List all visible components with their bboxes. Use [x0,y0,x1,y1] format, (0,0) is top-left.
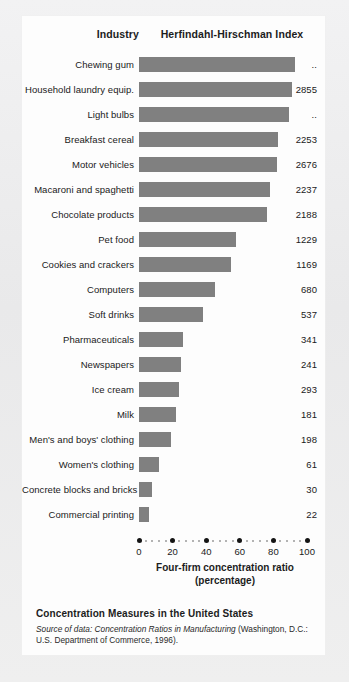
row-industry-label: Soft drinks [22,309,134,320]
row-industry-label: Breakfast cereal [22,134,134,145]
row-hhi-value: 2253 [273,134,317,145]
row-hhi-value: 2237 [273,184,317,195]
axis-minor-dot [158,540,160,542]
chart-row: Milk181 [22,404,325,429]
figure-caption: Concentration Measures in the United Sta… [36,608,314,646]
header-industry: Industry [22,28,139,40]
row-hhi-value: 198 [273,434,317,445]
chart-row: Motor vehicles2676 [22,154,325,179]
axis-minor-dot [299,540,301,542]
axis-tick-dot [170,538,175,543]
axis-tick-dot [204,538,209,543]
row-industry-label: Computers [22,284,134,295]
chart-row: Chocolate products2188 [22,204,325,229]
row-industry-label: Chocolate products [22,209,134,220]
chart-row: Men's and boys' clothing198 [22,429,325,454]
row-industry-label: Motor vehicles [22,159,134,170]
caption-source: Source of data: Concentration Ratios in … [36,624,314,646]
chart-row: Soft drinks537 [22,304,325,329]
row-hhi-value: 1229 [273,234,317,245]
row-bar [139,282,215,297]
axis-tick-dot [137,538,142,543]
caption-source-prefix: Source of data: [36,624,92,634]
chart-row: Light bulbs.. [22,104,325,129]
axis-minor-dot [178,540,180,542]
row-bar [139,207,267,222]
caption-source-publication: Concentration Ratios in Manufacturing [95,624,236,634]
chart-row: Pharmaceuticals341 [22,329,325,354]
chart-row: Household laundry equip.2855 [22,79,325,104]
axis-tick-label: 60 [235,546,246,557]
axis-tick-label: 100 [299,546,315,557]
axis-minor-dot [259,540,261,542]
row-hhi-value: 30 [273,484,317,495]
chart-row: Newspapers241 [22,354,325,379]
chart-row: Chewing gum.. [22,54,325,79]
axis-title: Four-firm concentration ratio (percentag… [139,562,311,587]
row-bar [139,182,270,197]
row-hhi-value: 341 [273,334,317,345]
row-industry-label: Ice cream [22,384,134,395]
row-hhi-value: 2855 [273,84,317,95]
chart-row: Macaroni and spaghetti2237 [22,179,325,204]
row-industry-label: Concrete blocks and bricks [22,484,134,495]
row-industry-label: Chewing gum [22,59,134,70]
row-hhi-value: .. [273,59,317,70]
axis-minor-dot [198,540,200,542]
chart-row: Pet food1229 [22,229,325,254]
row-hhi-value: 181 [273,409,317,420]
row-hhi-value: 61 [273,459,317,470]
axis-minor-dot [212,540,214,542]
column-headers: Industry Herfindahl-Hirschman Index [22,28,325,44]
axis-minor-dot [165,540,167,542]
row-hhi-value: 2676 [273,159,317,170]
chart-row: Concrete blocks and bricks30 [22,479,325,504]
row-bar [139,457,159,472]
row-industry-label: Macaroni and spaghetti [22,184,134,195]
chart-rows: Chewing gum..Household laundry equip.285… [22,54,325,529]
axis-title-line2: (percentage) [139,575,311,588]
row-hhi-value: 537 [273,309,317,320]
row-industry-label: Women's clothing [22,459,134,470]
axis-tick-dot [237,538,242,543]
axis-tick-labels: 020406080100 [139,546,307,559]
row-industry-label: Newspapers [22,359,134,370]
row-hhi-value: 293 [273,384,317,395]
chart-row: Ice cream293 [22,379,325,404]
chart-row: Computers680 [22,279,325,304]
axis-minor-dot [185,540,187,542]
row-bar [139,257,231,272]
row-bar [139,407,176,422]
chart-row: Women's clothing61 [22,454,325,479]
axis-minor-dot [266,540,268,542]
figure-card: Industry Herfindahl-Hirschman Index Chew… [22,16,325,655]
chart-row: Commercial printing22 [22,504,325,529]
row-bar [139,232,236,247]
axis-title-line1: Four-firm concentration ratio [139,562,311,575]
axis-tick-dot [271,538,276,543]
axis-minor-dot [246,540,248,542]
x-axis: 020406080100 Four-firm concentration rat… [139,538,325,594]
row-bar [139,157,277,172]
row-industry-label: Cookies and crackers [22,259,134,270]
concentration-chart: Industry Herfindahl-Hirschman Index Chew… [22,16,325,655]
row-industry-label: Commercial printing [22,509,134,520]
header-herfindahl-hirschman-index: Herfindahl-Hirschman Index [139,28,325,40]
row-industry-label: Men's and boys' clothing [22,434,134,445]
axis-minor-dot [293,540,295,542]
row-hhi-value: 241 [273,359,317,370]
axis-minor-dot [151,540,153,542]
row-bar [139,132,278,147]
row-bar [139,507,149,522]
axis-tick-label: 0 [136,546,141,557]
row-bar [139,307,203,322]
axis-minor-dot [232,540,234,542]
row-industry-label: Household laundry equip. [22,84,134,95]
axis-minor-dot [279,540,281,542]
row-bar [139,482,152,497]
row-hhi-value: 680 [273,284,317,295]
axis-minor-dot [219,540,221,542]
axis-minor-dot [225,540,227,542]
axis-minor-dot [286,540,288,542]
axis-tick-label: 80 [268,546,279,557]
